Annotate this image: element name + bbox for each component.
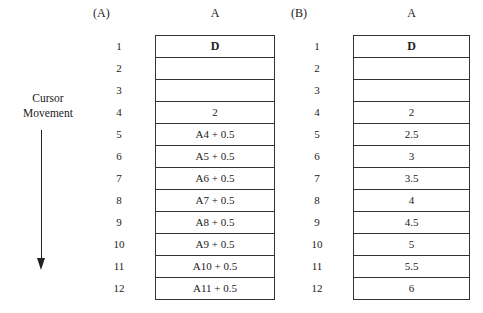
cell-A1[interactable]: D: [156, 36, 274, 57]
row-number: 7: [305, 167, 329, 189]
cell-A10[interactable]: A9 + 0.5: [156, 233, 274, 255]
cell-A11[interactable]: A10 + 0.5: [156, 255, 274, 277]
cell-A3[interactable]: [354, 79, 469, 101]
cell-A3[interactable]: [156, 79, 274, 101]
row-number: 5: [305, 123, 329, 145]
cell-A12[interactable]: 6: [354, 277, 469, 299]
cell-A11[interactable]: 5.5: [354, 255, 469, 277]
cell-A12[interactable]: A11 + 0.5: [156, 277, 274, 299]
cell-A5[interactable]: A4 + 0.5: [156, 123, 274, 145]
row-number: 9: [107, 211, 131, 233]
row-number: 11: [305, 255, 329, 277]
cell-A9[interactable]: 4.5: [354, 211, 469, 233]
row-number: 8: [107, 189, 131, 211]
cell-A8[interactable]: A7 + 0.5: [156, 189, 274, 211]
cursor-label-line2: Movement: [18, 106, 78, 121]
panel-a-spreadsheet-column: D2A4 + 0.5A5 + 0.5A6 + 0.5A7 + 0.5A8 + 0…: [155, 35, 275, 300]
row-number: 3: [107, 79, 131, 101]
row-number: 12: [305, 277, 329, 299]
down-arrow-icon: [37, 258, 45, 270]
panel-b-column-header: A: [353, 6, 470, 21]
row-number: 8: [305, 189, 329, 211]
row-number: 9: [305, 211, 329, 233]
row-number: 10: [107, 233, 131, 255]
row-number: 6: [305, 145, 329, 167]
panel-b-label: (B): [291, 6, 307, 21]
down-arrow-shaft: [41, 130, 42, 260]
cell-A1[interactable]: D: [354, 36, 469, 57]
row-number: 3: [305, 79, 329, 101]
row-number: 1: [305, 35, 329, 57]
cell-A5[interactable]: 2.5: [354, 123, 469, 145]
row-number: 12: [107, 277, 131, 299]
row-number: 1: [107, 35, 131, 57]
row-number: 11: [107, 255, 131, 277]
cell-A2[interactable]: [354, 57, 469, 79]
row-number: 6: [107, 145, 131, 167]
cell-A7[interactable]: 3.5: [354, 167, 469, 189]
cell-A6[interactable]: 3: [354, 145, 469, 167]
cell-A9[interactable]: A8 + 0.5: [156, 211, 274, 233]
row-number: 2: [107, 57, 131, 79]
cell-A4[interactable]: 2: [354, 101, 469, 123]
panel-a-column-header: A: [155, 6, 275, 21]
cell-A4[interactable]: 2: [156, 101, 274, 123]
row-number: 5: [107, 123, 131, 145]
row-number: 4: [107, 101, 131, 123]
cell-A7[interactable]: A6 + 0.5: [156, 167, 274, 189]
cell-A10[interactable]: 5: [354, 233, 469, 255]
cursor-label-line1: Cursor: [18, 91, 78, 106]
row-number: 4: [305, 101, 329, 123]
cell-A6[interactable]: A5 + 0.5: [156, 145, 274, 167]
row-number: 10: [305, 233, 329, 255]
cell-A8[interactable]: 4: [354, 189, 469, 211]
row-number: 7: [107, 167, 131, 189]
panel-b-spreadsheet-column: D22.533.544.555.56: [353, 35, 470, 300]
panel-a-label: (A): [93, 6, 110, 21]
cursor-movement-label: Cursor Movement: [18, 91, 78, 121]
row-number: 2: [305, 57, 329, 79]
cell-A2[interactable]: [156, 57, 274, 79]
